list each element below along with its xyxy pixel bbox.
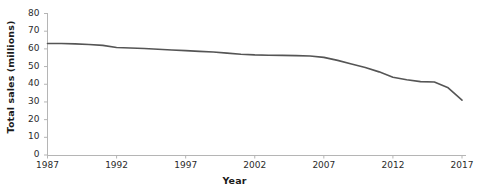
y-tick-label: 40: [18, 78, 40, 88]
y-tick-label: 20: [18, 114, 40, 124]
y-tick-label: 50: [18, 61, 40, 71]
y-tick-marks: [44, 14, 48, 156]
y-tick-label: 60: [18, 43, 40, 53]
series-line-total-sales: [48, 44, 463, 101]
y-tick-label: 80: [18, 8, 40, 18]
x-axis-title: Year: [0, 175, 469, 186]
x-tick-label: 1987: [28, 160, 68, 170]
y-tick-label: 0: [18, 149, 40, 159]
y-tick-label: 30: [18, 96, 40, 106]
x-tick-label: 2007: [304, 160, 344, 170]
x-tick-label: 1992: [97, 160, 137, 170]
y-tick-label: 10: [18, 131, 40, 141]
x-tick-label: 2012: [373, 160, 413, 170]
y-axis-title: Total sales (millions): [4, 2, 18, 152]
y-tick-label: 70: [18, 25, 40, 35]
x-tick-label: 2017: [442, 160, 478, 170]
x-tick-label: 1997: [166, 160, 206, 170]
x-tick-label: 2002: [235, 160, 275, 170]
